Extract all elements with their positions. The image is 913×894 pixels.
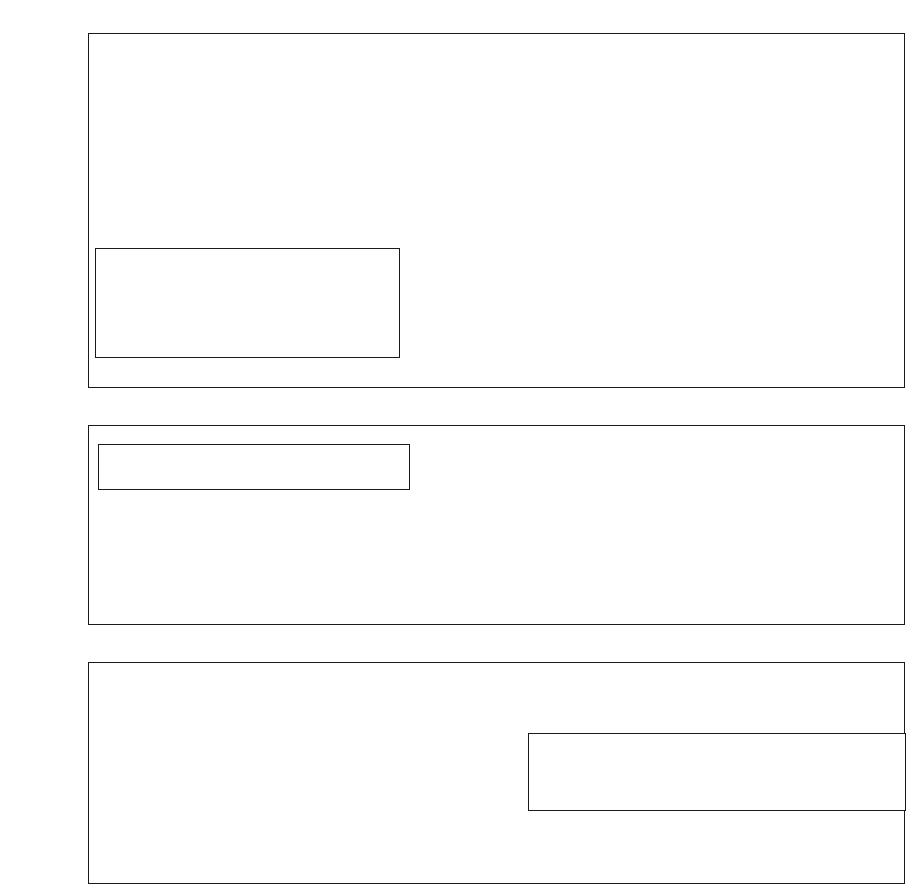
chart-panel-trade — [0, 635, 913, 894]
chart-panel-growth — [0, 0, 913, 420]
legend-exchange-rate — [98, 444, 410, 490]
chart-panel-exchange-rate — [0, 420, 913, 635]
legend-growth — [95, 248, 400, 358]
legend-trade — [528, 733, 906, 811]
figure-root — [0, 0, 913, 894]
